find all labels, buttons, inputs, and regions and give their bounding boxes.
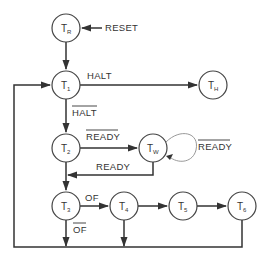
- node-t4: T4: [110, 192, 138, 220]
- node-t5: T5: [169, 192, 197, 220]
- node-tr: TR: [52, 14, 80, 42]
- state-diagram: TR T1 TH T2 TW T3 T4 T5 T6 RESET HALT HA…: [0, 0, 267, 261]
- label-of: OF: [85, 192, 99, 203]
- label-not-ready-loop: READY: [198, 141, 233, 152]
- label-not-ready-t2: READY: [86, 131, 121, 142]
- label-not-halt: HALT: [72, 107, 97, 118]
- node-t6: T6: [228, 192, 256, 220]
- node-t3: T3: [52, 192, 80, 220]
- label-halt: HALT: [87, 70, 112, 81]
- label-reset: RESET: [105, 22, 138, 33]
- label-not-of: OF: [73, 224, 87, 235]
- node-t2: T2: [52, 134, 80, 162]
- node-t1: T1: [52, 71, 80, 99]
- node-tw: TW: [139, 134, 167, 162]
- label-ready: READY: [96, 161, 131, 172]
- node-th: TH: [199, 71, 227, 99]
